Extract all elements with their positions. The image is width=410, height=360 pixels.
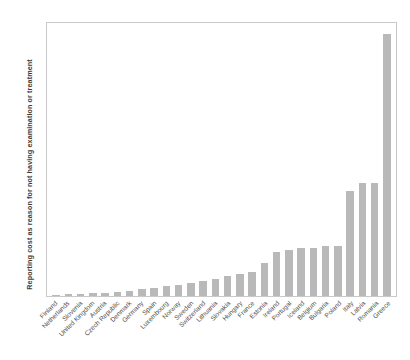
bar-chart: Reporting cost as reason for not having … — [0, 0, 410, 360]
x-axis-labels: FinlandNetherlandsSloveniaUnited Kingdom… — [46, 298, 397, 360]
y-axis-title: Reporting cost as reason for not having … — [25, 50, 34, 300]
y-axis-ticks: 12%11%10%9%8%7%6%5%4%3%2%1%0% — [46, 22, 397, 297]
